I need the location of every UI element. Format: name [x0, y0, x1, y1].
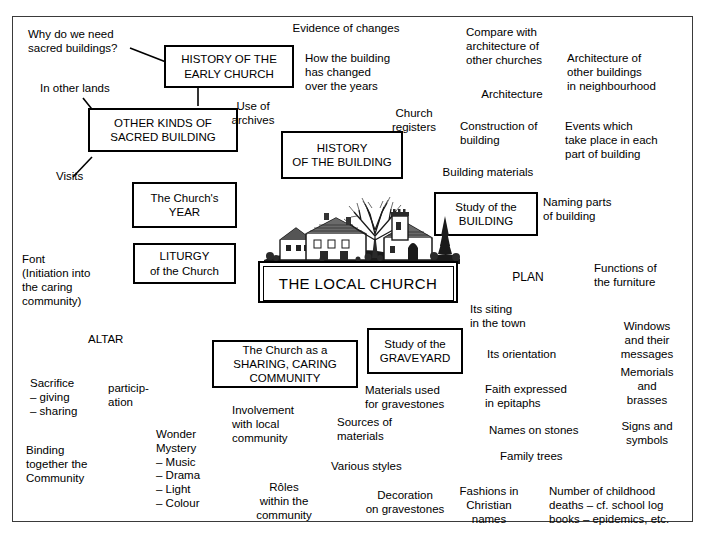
leaf-decoration-on-gravestones: Decoration on gravestones	[354, 489, 456, 517]
node-label: HISTORY OF THE BUILDING	[292, 141, 391, 169]
node-history-early-church[interactable]: HISTORY OF THE EARLY CHURCH	[164, 45, 294, 88]
leaf-building-materials: Building materials	[424, 166, 552, 180]
node-history-of-building[interactable]: HISTORY OF THE BUILDING	[281, 131, 403, 179]
leaf-visits: Visits	[56, 170, 116, 184]
node-label: The Church as a SHARING, CARING COMMUNIT…	[233, 343, 337, 385]
leaf-participation: particip- ation	[108, 382, 168, 410]
leaf-roles-within-community: Rôles within the community	[245, 481, 323, 522]
node-label: Study of the GRAVEYARD	[380, 337, 451, 365]
node-label: OTHER KINDS OF SACRED BUILDING	[110, 116, 215, 144]
central-node-local-church[interactable]: THE LOCAL CHURCH	[258, 261, 458, 303]
node-label: LITURGY of the Church	[150, 249, 219, 277]
leaf-architecture-other-buildings: Architecture of other buildings in neigh…	[567, 52, 687, 93]
leaf-family-trees: Family trees	[500, 450, 580, 464]
leaf-wonder-mystery: Wonder Mystery – Music – Drama – Light –…	[156, 428, 232, 511]
leaf-font-initiation-detail: (Initiation into the caring community)	[22, 267, 132, 308]
leaf-binding-together-community: Binding together the Community	[26, 444, 130, 485]
village-church-illustration	[262, 186, 462, 266]
leaf-in-other-lands: In other lands	[40, 82, 150, 96]
mind-map-diagram: HISTORY OF THE EARLY CHURCH OTHER KINDS …	[0, 0, 706, 537]
leaf-faith-expressed-epitaphs: Faith expressed in epitaphs	[485, 383, 589, 411]
leaf-how-building-changed: How the building has changed over the ye…	[305, 52, 407, 93]
leaf-evidence-of-changes: Evidence of changes	[280, 22, 412, 36]
node-liturgy[interactable]: LITURGY of the Church	[133, 243, 236, 284]
leaf-names-on-stones: Names on stones	[489, 424, 599, 438]
node-label: The Church's YEAR	[150, 191, 218, 219]
leaf-events-which-take-place: Events which take place in each part of …	[565, 120, 690, 161]
leaf-naming-parts-of-building: Naming parts of building	[543, 196, 643, 224]
leaf-functions-of-furniture: Functions of the furniture	[594, 262, 694, 290]
leaf-compare-architecture: Compare with architecture of other churc…	[466, 26, 566, 67]
leaf-architecture: Architecture	[466, 88, 558, 102]
leaf-plan: PLAN	[504, 270, 552, 284]
node-label: HISTORY OF THE EARLY CHURCH	[181, 52, 277, 80]
leaf-sources-of-materials: Sources of materials	[337, 416, 417, 444]
leaf-materials-used-gravestones: Materials used for gravestones	[365, 384, 469, 412]
leaf-fashions-christian-names: Fashions in Christian names	[444, 485, 534, 526]
node-other-kinds-sacred-building[interactable]: OTHER KINDS OF SACRED BUILDING	[88, 108, 238, 152]
leaf-church-registers: Church registers	[383, 107, 445, 135]
node-label: Study of the BUILDING	[455, 200, 516, 228]
node-church-year[interactable]: The Church's YEAR	[132, 182, 237, 228]
node-study-of-graveyard[interactable]: Study of the GRAVEYARD	[367, 328, 463, 374]
leaf-font: Font	[22, 253, 62, 267]
leaf-construction-of-building: Construction of building	[460, 120, 564, 148]
leaf-why-sacred-buildings: Why do we need sacred buildings?	[28, 28, 148, 56]
leaf-its-siting-in-town: Its siting in the town	[470, 303, 560, 331]
leaf-sacrifice: Sacrifice – giving – sharing	[30, 377, 118, 418]
central-node-label: THE LOCAL CHURCH	[263, 266, 454, 301]
leaf-windows-and-messages: Windows and their messages	[608, 320, 686, 361]
leaf-childhood-deaths: Number of childhood deaths – cf. school …	[549, 485, 691, 526]
leaf-its-orientation: Its orientation	[487, 348, 583, 362]
leaf-various-styles: Various styles	[331, 460, 421, 474]
leaf-use-of-archives: Use of archives	[222, 100, 284, 128]
node-sharing-caring-community[interactable]: The Church as a SHARING, CARING COMMUNIT…	[212, 340, 358, 388]
leaf-involvement-local-community: Involvement with local community	[232, 404, 328, 445]
leaf-altar: ALTAR	[88, 333, 148, 347]
leaf-memorials-and-brasses: Memorials and brasses	[608, 366, 686, 407]
leaf-signs-and-symbols: Signs and symbols	[608, 420, 686, 448]
